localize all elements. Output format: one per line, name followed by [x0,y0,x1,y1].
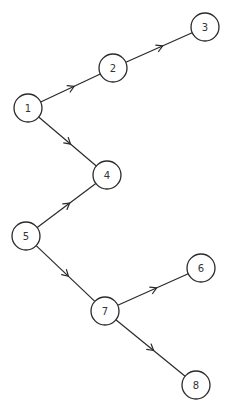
node-label: 1 [25,103,31,114]
edge-line [126,33,192,63]
node-5: 5 [12,222,40,250]
edge-line [36,246,95,302]
edge-2-to-3 [126,33,192,63]
edge-7-to-6 [118,274,188,306]
node-1: 1 [14,94,42,122]
edge-5-to-4 [37,183,96,227]
edge-line [118,274,188,306]
edge-line [37,183,96,227]
edge-1-to-4 [39,117,97,166]
node-label: 3 [202,22,208,33]
node-4: 4 [93,161,121,189]
edge-1-to-2 [41,74,101,102]
node-label: 8 [193,380,199,391]
node-8: 8 [182,371,210,399]
edge-7-to-8 [116,320,185,376]
edge-5-to-7 [36,246,95,302]
edges-layer [36,33,192,376]
edge-line [41,74,101,102]
node-2: 2 [99,54,127,82]
graph-canvas: 12345678 [0,0,230,417]
edge-line [116,320,185,376]
node-label: 6 [198,263,204,274]
node-label: 2 [110,63,116,74]
node-label: 5 [23,231,29,242]
node-label: 4 [104,170,110,181]
node-label: 7 [102,306,108,317]
node-6: 6 [187,254,215,282]
node-7: 7 [91,297,119,325]
nodes-layer: 12345678 [12,13,219,399]
edge-line [39,117,97,166]
node-3: 3 [191,13,219,41]
